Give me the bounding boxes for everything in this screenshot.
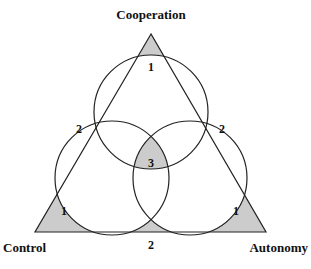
region-center: 3 [148,156,154,170]
region-left-corner: 1 [61,204,67,218]
region-right-edge: 2 [219,122,225,136]
triangle-venn-diagram: Cooperation Control Autonomy 1 1 1 2 2 2… [0,0,311,269]
region-top-corner: 1 [148,60,154,74]
region-right-corner: 1 [233,204,239,218]
label-control: Control [3,240,46,255]
region-left-edge: 2 [76,122,82,136]
label-cooperation: Cooperation [116,7,186,22]
region-bottom-edge: 2 [148,238,154,252]
label-autonomy: Autonomy [249,240,308,255]
